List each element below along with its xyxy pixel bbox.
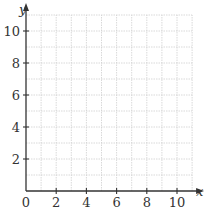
y-tick-label: 4 bbox=[12, 120, 20, 135]
y-tick-label: 2 bbox=[12, 152, 20, 167]
ticks: 0246810246810 bbox=[3, 24, 185, 211]
x-tick-label: 6 bbox=[112, 195, 120, 210]
grid-lines bbox=[26, 15, 192, 191]
x-tick-label: 2 bbox=[52, 195, 60, 210]
y-tick-label: 8 bbox=[12, 56, 20, 71]
x-tick-label: 10 bbox=[169, 195, 186, 210]
y-axis-label: y bbox=[18, 2, 27, 17]
x-tick-label: 8 bbox=[143, 195, 151, 210]
coordinate-grid-chart: 0246810246810 x y bbox=[0, 0, 204, 210]
x-axis-label: x bbox=[196, 184, 204, 199]
y-tick-label: 6 bbox=[12, 88, 20, 103]
x-tick-label: 0 bbox=[22, 195, 30, 210]
x-tick-label: 4 bbox=[82, 195, 90, 210]
y-tick-label: 10 bbox=[3, 24, 20, 39]
